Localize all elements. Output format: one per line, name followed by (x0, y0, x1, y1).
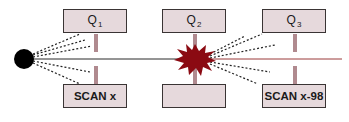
source-dot-icon (14, 49, 34, 69)
box-scan-x-98: SCAN x-98 (262, 84, 326, 108)
box-q2-label: Q2 (187, 13, 202, 29)
box-q1-label: Q1 (88, 13, 103, 29)
box-scan-x-98-label: SCAN x-98 (265, 90, 324, 102)
connector-top-1 (94, 34, 98, 52)
connector-bottom-3 (293, 66, 297, 84)
connector-top-3 (293, 34, 297, 52)
box-scan-x-label: SCAN x (74, 90, 116, 102)
box-q2: Q2 (162, 9, 226, 33)
connector-bottom-1 (94, 66, 98, 84)
box-q3-label: Q3 (287, 13, 302, 29)
box-q1: Q1 (63, 9, 127, 33)
box-q3: Q3 (262, 9, 326, 33)
box-empty (162, 84, 226, 108)
box-scan-x: SCAN x (63, 84, 127, 108)
